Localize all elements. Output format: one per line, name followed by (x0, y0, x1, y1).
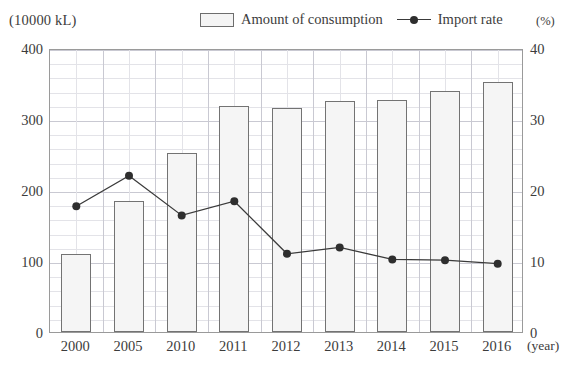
left-axis-tick-labels: 4003002001000 (3, 49, 43, 333)
right-tick-10: 10 (530, 254, 545, 271)
data-point-2015 (441, 256, 449, 264)
line-series-import-rate (50, 50, 522, 332)
legend-label-consumption: Amount of consumption (241, 11, 383, 28)
right-axis-tick-labels: 403020100 (530, 49, 570, 333)
data-point-2011 (230, 197, 238, 205)
chart-legend: Amount of consumption Import rate (200, 11, 503, 28)
line-dot-icon (397, 13, 431, 27)
chart-container: (10000 kL) Amount of consumption Import … (0, 0, 579, 375)
x-tick-2015: 2015 (430, 338, 459, 355)
legend-item-consumption: Amount of consumption (200, 11, 383, 28)
left-tick-0: 0 (36, 325, 43, 342)
left-tick-400: 400 (21, 41, 43, 58)
plot-area (49, 49, 523, 333)
data-point-2005 (125, 172, 133, 180)
x-tick-2000: 2000 (61, 338, 90, 355)
x-tick-2005: 2005 (114, 338, 143, 355)
x-tick-2012: 2012 (272, 338, 301, 355)
right-axis-unit-label: (%) (536, 14, 555, 29)
data-point-2010 (178, 211, 186, 219)
x-tick-2010: 2010 (166, 338, 195, 355)
data-point-2012 (283, 250, 291, 258)
data-point-2014 (388, 255, 396, 263)
data-point-2016 (494, 260, 502, 268)
left-axis-unit-label: (10000 kL) (9, 12, 77, 29)
import-rate-line (50, 50, 523, 333)
x-axis-tick-labels: 200020052010201120122013201420152016 (49, 338, 523, 362)
left-tick-200: 200 (21, 183, 43, 200)
left-tick-100: 100 (21, 254, 43, 271)
right-tick-40: 40 (530, 41, 545, 58)
x-tick-2016: 2016 (482, 338, 511, 355)
x-tick-2014: 2014 (377, 338, 406, 355)
left-tick-300: 300 (21, 112, 43, 129)
data-point-2013 (336, 243, 344, 251)
right-tick-30: 30 (530, 112, 545, 129)
bar-swatch-icon (200, 13, 234, 27)
right-tick-20: 20 (530, 183, 545, 200)
x-tick-2011: 2011 (219, 338, 247, 355)
data-point-2000 (72, 202, 80, 210)
x-axis-unit-label: (year) (527, 338, 559, 354)
legend-item-import-rate: Import rate (397, 11, 503, 28)
legend-label-import-rate: Import rate (438, 11, 503, 28)
x-tick-2013: 2013 (324, 338, 353, 355)
